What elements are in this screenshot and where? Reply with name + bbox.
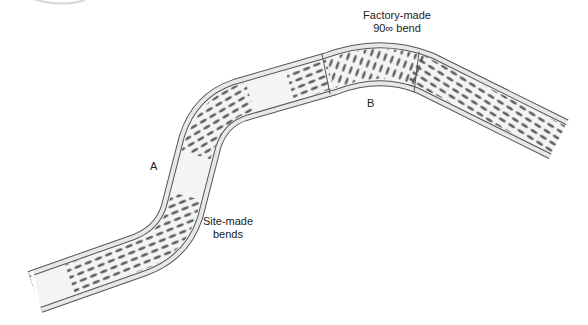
site-bends-label-line2: bends	[198, 228, 258, 241]
factory-bend-label-line1: Factory-made	[342, 9, 452, 22]
point-a-label: A	[150, 160, 157, 173]
decorative-arc	[30, 0, 85, 4]
cable-tray-diagram	[0, 0, 588, 325]
point-b-label: B	[367, 97, 374, 110]
factory-bend-label: Factory-made 90∞ bend	[342, 9, 452, 35]
site-bends-label: Site-made bends	[198, 215, 258, 241]
site-bends-label-line1: Site-made	[198, 215, 258, 228]
factory-bend-label-line2: 90∞ bend	[342, 22, 452, 35]
